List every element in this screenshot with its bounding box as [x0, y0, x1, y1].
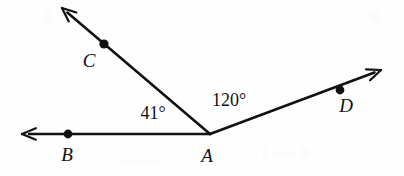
- point-dot-b: [64, 130, 73, 139]
- rays-group: [29, 13, 374, 134]
- angle-measure-cad: 120°: [212, 91, 246, 109]
- point-dots-group: [64, 39, 345, 138]
- point-label-c: C: [83, 51, 96, 70]
- ray-ac: [67, 13, 210, 134]
- point-label-d: D: [339, 96, 353, 115]
- point-label-a: A: [201, 146, 213, 165]
- point-label-b: B: [61, 145, 73, 164]
- ray-ad-arrowhead-2: [370, 70, 381, 80]
- ray-ad-arrowhead-1: [366, 69, 381, 70]
- point-dot-c: [99, 39, 108, 48]
- arrowheads-group: [22, 8, 381, 140]
- angle-diagram-figure: B C D A 41° 120°: [0, 0, 404, 176]
- point-dot-d: [336, 86, 345, 95]
- angle-measure-bac: 41°: [140, 104, 165, 122]
